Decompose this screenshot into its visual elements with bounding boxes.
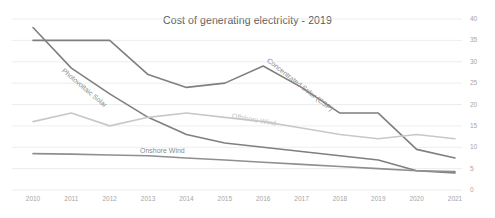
x-axis-tick-label: 2011: [51, 196, 91, 203]
y-axis-tick-label: 25: [470, 80, 495, 87]
x-axis-tick-label: 2017: [282, 196, 322, 203]
y-axis-tick-label: 35: [470, 37, 495, 44]
y-axis-tick-label: 15: [470, 123, 495, 130]
x-axis-tick-label: 2013: [128, 196, 168, 203]
x-axis-tick-label: 2012: [90, 196, 130, 203]
y-axis-tick-label: 5: [470, 166, 495, 173]
x-axis-tick-label: 2021: [435, 196, 475, 203]
y-axis-tick-label: 10: [470, 144, 495, 151]
x-axis-tick-label: 2010: [13, 196, 53, 203]
line-chart: Cost of generating electricity - 2019 40…: [0, 0, 495, 218]
x-axis-tick-label: 2014: [166, 196, 206, 203]
y-axis-tick-label: 0: [470, 187, 495, 194]
x-axis-tick-label: 2016: [243, 196, 283, 203]
series-label-onshore-wind: Onshore Wind: [140, 147, 185, 154]
x-axis-tick-label: 2019: [358, 196, 398, 203]
x-axis-tick-label: 2020: [397, 196, 437, 203]
y-axis-tick-label: 20: [470, 102, 495, 109]
y-axis-tick-label: 40: [470, 16, 495, 23]
y-axis-tick-label: 30: [470, 59, 495, 66]
plot-area: [0, 0, 495, 218]
x-axis-tick-label: 2015: [205, 196, 245, 203]
x-axis-tick-label: 2018: [320, 196, 360, 203]
